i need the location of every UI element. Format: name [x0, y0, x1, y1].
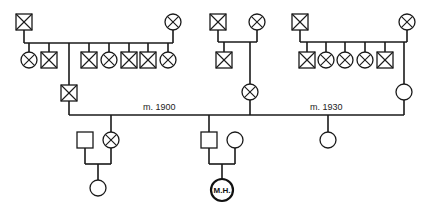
proband-icon: M.H.	[211, 179, 233, 201]
deceased-female-icon	[165, 14, 181, 30]
proband-label: M.H.	[214, 186, 231, 195]
marriage-line: m. 1900 m. 1930	[69, 100, 404, 115]
generation-3: M.H.	[77, 115, 336, 201]
deceased-female-icon	[101, 52, 117, 68]
pedigree-diagram: m. 1900 m. 1930	[0, 0, 432, 215]
family-1	[16, 14, 181, 101]
deceased-male-icon	[121, 52, 137, 68]
living-female-icon	[90, 180, 106, 196]
deceased-female-icon	[399, 14, 415, 30]
deceased-female-icon	[242, 84, 258, 100]
deceased-male-icon	[140, 52, 156, 68]
marriage-label-1900: m. 1900	[143, 102, 176, 112]
deceased-female-icon	[337, 52, 353, 68]
deceased-male-icon	[292, 14, 308, 30]
deceased-female-icon	[249, 14, 265, 30]
deceased-female-icon	[160, 52, 176, 68]
deceased-male-icon	[16, 14, 32, 30]
deceased-male-icon	[377, 52, 393, 68]
marriage-label-1930: m. 1930	[310, 102, 343, 112]
deceased-male-icon	[41, 52, 57, 68]
deceased-male-icon	[299, 52, 315, 68]
living-female-icon	[320, 132, 336, 148]
deceased-female-icon	[103, 132, 119, 148]
deceased-female-icon	[318, 52, 334, 68]
living-male-icon	[77, 132, 93, 148]
deceased-female-icon	[357, 52, 373, 68]
deceased-male-icon	[61, 85, 77, 101]
deceased-male-icon	[81, 52, 97, 68]
deceased-female-icon	[21, 52, 37, 68]
living-female-icon	[227, 132, 243, 148]
living-male-icon	[201, 132, 217, 148]
deceased-male-icon	[210, 14, 226, 30]
deceased-male-icon	[216, 52, 232, 68]
living-female-icon	[396, 84, 412, 100]
family-3	[292, 14, 415, 100]
family-2	[210, 14, 265, 100]
